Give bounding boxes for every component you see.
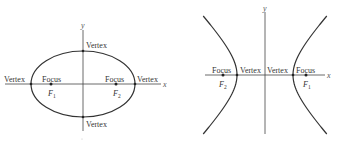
ellipse-focus-f2-label: F2 bbox=[112, 89, 121, 99]
ellipse-vertex-right-label: Vertex bbox=[137, 75, 158, 84]
hyperbola-vertex-left bbox=[236, 74, 239, 77]
hyperbola-vertex-right-label: Vertex bbox=[267, 66, 288, 75]
f2-subscript: 2 bbox=[118, 93, 121, 99]
ellipse-focus-right-label: Focus bbox=[105, 75, 124, 84]
ellipse-y-axis-label: y bbox=[80, 21, 85, 30]
hyperbola-figure: x y Vertex Vertex Focus Focus F2 F1 bbox=[203, 4, 331, 134]
ellipse-vertex-left-label: Vertex bbox=[4, 75, 25, 84]
conic-sections-diagram: x y Vertex Vertex Vertex Vertex Focus Fo… bbox=[0, 0, 337, 143]
ellipse-vertex-bottom bbox=[82, 116, 85, 119]
hf1-subscript: 1 bbox=[308, 84, 311, 90]
hyperbola-focus-left-label: Focus bbox=[212, 66, 231, 75]
hyperbola-focus-f2-label: F2 bbox=[218, 80, 227, 90]
hyperbola-y-axis-label: y bbox=[262, 4, 267, 13]
f1-subscript: 1 bbox=[53, 93, 56, 99]
hyperbola-x-axis-label: x bbox=[326, 71, 331, 80]
ellipse-vertex-bottom-label: Vertex bbox=[86, 120, 107, 129]
ellipse-vertex-right bbox=[134, 83, 137, 86]
ellipse-focus-f1-label: F1 bbox=[47, 89, 56, 99]
hyperbola-vertex-right bbox=[292, 74, 295, 77]
ellipse-vertex-top-label: Vertex bbox=[86, 41, 107, 50]
ellipse-x-axis-label: x bbox=[162, 80, 167, 89]
ellipse-vertex-top bbox=[82, 50, 85, 53]
hf2-subscript: 2 bbox=[224, 84, 227, 90]
ellipse-figure: x y Vertex Vertex Vertex Vertex Focus Fo… bbox=[4, 21, 167, 140]
hyperbola-focus-f1-label: F1 bbox=[302, 80, 311, 90]
hyperbola-focus-right-label: Focus bbox=[296, 66, 315, 75]
hyperbola-vertex-left-label: Vertex bbox=[240, 66, 261, 75]
stray-mark bbox=[82, 139, 83, 140]
ellipse-vertex-left bbox=[30, 83, 33, 86]
ellipse-focus-left-label: Focus bbox=[42, 75, 61, 84]
